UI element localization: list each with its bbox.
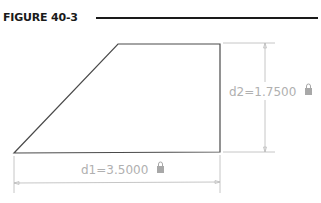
dimension-d1-text: d1=3.5000 [81, 163, 148, 177]
dimension-d2[interactable]: d2=1.7500 [223, 43, 312, 152]
lock-icon [157, 162, 164, 173]
trapezoid-shape[interactable] [14, 44, 220, 153]
dimension-d2-text: d2=1.7500 [229, 85, 296, 99]
dimension-d1[interactable]: d1=3.5000 [14, 155, 220, 193]
drawing-canvas: d2=1.7500 d1=3.5000 [0, 0, 321, 203]
lock-icon [305, 84, 312, 95]
